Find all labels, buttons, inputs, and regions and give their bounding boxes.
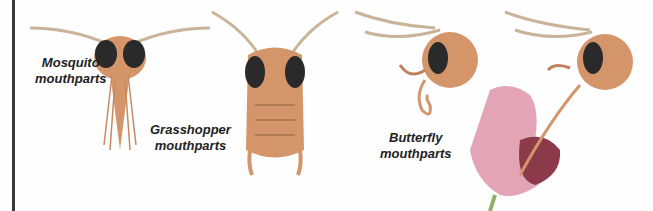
mosquito-label-line1: Mosquito — [35, 55, 107, 71]
butterfly-flower-illustration — [490, 0, 653, 211]
mosquito-label-line2: mouthparts — [35, 71, 107, 87]
butterfly-label-line2: mouthparts — [380, 146, 452, 162]
grasshopper-illustration — [200, 0, 350, 211]
grasshopper-label-line2: mouthparts — [150, 138, 231, 154]
mosquito-illustration — [0, 0, 220, 211]
butterfly-label: Butterfly mouthparts — [380, 130, 452, 162]
grasshopper-label-line1: Grasshopper — [150, 122, 231, 138]
illustration-panel: Mosquito mouthparts Grasshopper mouthpar… — [0, 0, 653, 211]
mosquito-label: Mosquito mouthparts — [35, 55, 107, 87]
butterfly-label-line1: Butterfly — [380, 130, 452, 146]
grasshopper-label: Grasshopper mouthparts — [150, 122, 231, 154]
butterfly-illustration — [340, 0, 500, 211]
